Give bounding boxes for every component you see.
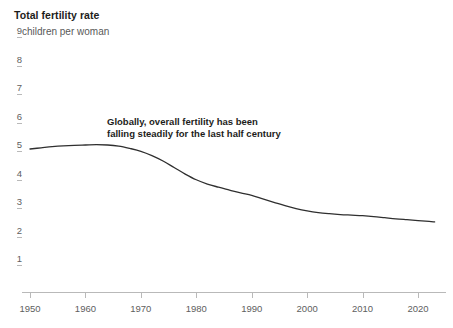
y-axis-tick-4: 4: [0, 169, 22, 181]
y-axis-tick-label: 1: [17, 254, 22, 266]
x-axis-tick-mark-1980: [196, 292, 197, 298]
x-axis-tick-mark-1990: [252, 292, 253, 298]
x-axis-tick-label-2010: 2010: [343, 303, 383, 314]
y-axis-tick-label: 5: [17, 140, 22, 152]
x-axis-tick-label-1960: 1960: [65, 303, 105, 314]
plot-area: 123456789 195019601970198019902000201020…: [0, 0, 453, 328]
y-axis-tick-label: 3: [17, 197, 22, 209]
y-axis-tick-1: 1: [0, 254, 22, 266]
x-axis-tick-label-1950: 1950: [10, 303, 50, 314]
fertility-line-series: [30, 145, 435, 222]
y-axis-tick-7: 7: [0, 83, 22, 95]
y-axis-tick-3: 3: [0, 197, 22, 209]
x-axis-tick-mark-1960: [85, 292, 86, 298]
x-axis-tick-label-1970: 1970: [121, 303, 161, 314]
x-axis-tick-mark-2010: [363, 292, 364, 298]
x-axis-tick-mark-2020: [418, 292, 419, 298]
y-axis-tick-label: 6: [17, 112, 22, 124]
y-axis-tick-label: 8: [17, 55, 22, 67]
y-axis-tick-2: 2: [0, 226, 22, 238]
x-axis-tick-label-1990: 1990: [232, 303, 272, 314]
chart-canvas: [0, 0, 453, 328]
y-axis-tick-9: 9: [0, 26, 22, 38]
chart-annotation: Globally, overall fertility has been fal…: [107, 116, 281, 139]
y-axis-tick-8: 8: [0, 55, 22, 67]
y-axis-tick-label: 2: [17, 226, 22, 238]
x-axis-tick-label-1980: 1980: [176, 303, 216, 314]
x-axis-tick-label-2020: 2020: [398, 303, 438, 314]
x-axis-tick-mark-1950: [30, 292, 31, 298]
x-axis-tick-label-2000: 2000: [287, 303, 327, 314]
y-axis-tick-label: 9: [17, 26, 22, 38]
fertility-rate-chart: Total fertility rate children per woman …: [0, 0, 453, 328]
y-axis-tick-6: 6: [0, 112, 22, 124]
y-axis-tick-label: 4: [17, 169, 22, 181]
x-axis-tick-mark-2000: [307, 292, 308, 298]
y-axis-tick-5: 5: [0, 140, 22, 152]
x-axis-tick-mark-1970: [141, 292, 142, 298]
y-axis-tick-label: 7: [17, 83, 22, 95]
